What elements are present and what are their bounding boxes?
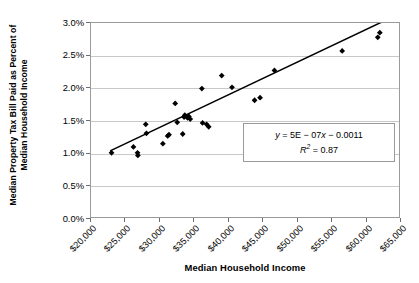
y-tick-label: 3.0% <box>36 18 84 27</box>
x-tick-mark <box>366 218 367 222</box>
equation-tail: − 0.0011 <box>326 130 363 140</box>
r-squared-number: = 0.87 <box>310 145 338 155</box>
data-point <box>199 86 205 92</box>
x-tick-mark <box>193 218 194 222</box>
data-point <box>219 73 225 79</box>
regression-equation: y = 5E − 07x − 0.0011 <box>246 129 392 141</box>
data-point <box>160 141 166 147</box>
y-tick-label: 2.5% <box>36 50 84 59</box>
regression-annotation: y = 5E − 07x − 0.0011 R2 = 0.87 <box>243 123 395 162</box>
data-point <box>257 95 263 101</box>
data-point <box>172 101 178 107</box>
y-tick-label: 1.0% <box>36 148 84 157</box>
x-tick-mark <box>124 218 125 222</box>
data-point <box>143 121 149 127</box>
y-tick-label: 1.5% <box>36 116 84 125</box>
data-point <box>109 150 115 156</box>
data-point <box>180 131 186 137</box>
x-axis-title: Median Household Income <box>90 262 400 273</box>
y-tick-label: 0.5% <box>36 181 84 190</box>
plot-area <box>90 22 400 218</box>
x-tick-mark <box>159 218 160 222</box>
x-tick-mark <box>331 218 332 222</box>
data-layer <box>91 23 399 218</box>
x-tick-mark <box>262 218 263 222</box>
y-tick-label: 2.0% <box>36 83 84 92</box>
chart-figure: Median Property Tax Bill Paid as Percent… <box>0 0 419 283</box>
equation-body: = 5E − 07 <box>280 130 322 140</box>
x-tick-mark <box>400 218 401 222</box>
r-squared-value: R2 = 0.87 <box>246 141 392 156</box>
x-tick-mark <box>297 218 298 222</box>
data-point <box>252 97 258 103</box>
data-point <box>131 144 137 150</box>
data-point <box>339 48 345 54</box>
data-point <box>229 84 235 90</box>
x-tick-mark <box>228 218 229 222</box>
y-tick-label: 0.0% <box>36 214 84 223</box>
x-tick-mark <box>90 218 91 222</box>
